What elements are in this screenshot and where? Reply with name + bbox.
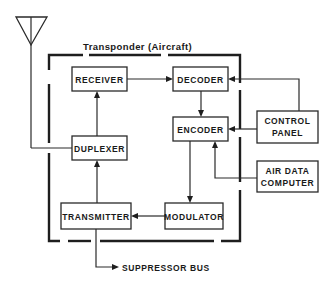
control-panel-block: CONTROL PANEL <box>257 111 318 143</box>
air-data-computer-block: AIR DATA COMPUTER <box>257 161 318 192</box>
duplexer-block: DUPLEXER <box>72 136 127 160</box>
transponder-block-diagram: Transponder (Aircraft) R <box>0 0 329 284</box>
duplexer-label: DUPLEXER <box>74 144 125 154</box>
receiver-block: RECEIVER <box>72 67 127 91</box>
control-panel-label-line2: PANEL <box>272 128 303 138</box>
air-data-computer-label-line1: AIR DATA <box>265 166 309 176</box>
modulator-label: MODULATOR <box>164 212 224 222</box>
receiver-label: RECEIVER <box>75 75 123 85</box>
encoder-block: ENCODER <box>173 117 228 141</box>
antenna-icon <box>16 17 72 148</box>
suppressor-bus-label: SUPPRESSOR BUS <box>122 263 210 273</box>
transmitter-block: TRANSMITTER <box>61 203 131 229</box>
modulator-block: MODULATOR <box>164 203 224 229</box>
encoder-label: ENCODER <box>177 125 224 135</box>
control-panel-label-line1: CONTROL <box>264 116 310 126</box>
air-data-computer-label-line2: COMPUTER <box>261 178 314 188</box>
decoder-block: DECODER <box>173 67 228 91</box>
transmitter-label: TRANSMITTER <box>62 212 130 222</box>
decoder-label: DECODER <box>177 75 224 85</box>
enclosure-label: Transponder (Aircraft) <box>83 41 192 52</box>
